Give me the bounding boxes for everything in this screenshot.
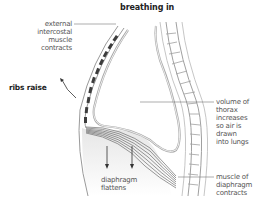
label-volume-of-thorax: volume of thorax increases so air is dra… — [216, 98, 249, 146]
vertebrae — [166, 33, 200, 185]
back-skin — [182, 22, 208, 196]
label-line: diaphragm — [216, 181, 252, 189]
ribs-raise-arrow — [62, 80, 76, 98]
label-line: drawn — [216, 130, 249, 138]
label-line: contracts — [14, 44, 72, 52]
label-line: external — [14, 20, 72, 28]
label-line: volume of — [216, 98, 249, 106]
label-line: muscle of — [216, 173, 252, 181]
back-outer — [160, 22, 186, 196]
label-line: diaphragm — [101, 176, 137, 184]
diagram-title: breathing in — [120, 3, 174, 12]
label-line: thorax — [216, 106, 249, 114]
label-line: intercostal — [14, 28, 72, 36]
label-diaphragm-flattens: diaphragm flattens — [101, 176, 137, 192]
label-line: flattens — [101, 184, 137, 192]
spine-front — [166, 22, 192, 196]
chest-wall-inner — [85, 28, 124, 128]
label-line: increases — [216, 114, 249, 122]
label-external-intercostal: external intercostal muscle contracts — [14, 20, 72, 52]
ribs-raise-arrowhead-icon — [60, 78, 64, 82]
label-muscle-of-diaphragm: muscle of diaphragm contracts — [216, 173, 252, 197]
label-line: contracts — [216, 189, 252, 197]
label-line: into lungs — [216, 138, 249, 146]
label-line: so air is — [216, 122, 249, 130]
label-line: muscle — [14, 36, 72, 44]
label-ribs-raise: ribs raise — [9, 84, 47, 92]
